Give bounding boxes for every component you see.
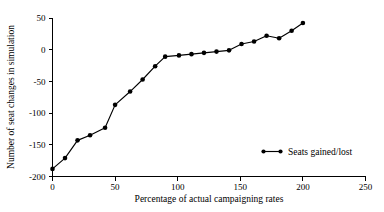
data-point <box>239 42 244 47</box>
data-point <box>301 21 306 26</box>
data-point <box>214 49 219 54</box>
y-axis-ticks: -200-150-100-50050 <box>29 13 53 182</box>
y-tick-label: -200 <box>29 172 46 182</box>
x-tick-label: 250 <box>359 182 373 192</box>
y-tick-label: 0 <box>41 45 46 55</box>
x-tick-label: 150 <box>234 182 248 192</box>
y-tick-label: -150 <box>29 140 46 150</box>
data-point <box>140 77 145 82</box>
x-tick-label: 50 <box>111 182 121 192</box>
series-line-seats-gained-lost <box>53 23 303 169</box>
y-tick-label: 50 <box>37 13 47 23</box>
data-point <box>50 167 55 172</box>
data-point <box>103 125 108 130</box>
legend-dot-left <box>261 149 265 153</box>
series-group <box>50 21 305 171</box>
legend-label-seats-gained-lost: Seats gained/lost <box>288 147 352 157</box>
data-point <box>264 33 269 38</box>
chart-figure: -200-150-100-50050 050100150200250 Perce… <box>0 0 384 212</box>
series-markers-seats-gained-lost <box>50 21 305 171</box>
y-tick-label: -50 <box>34 77 46 87</box>
data-point <box>63 156 68 161</box>
data-point <box>252 39 257 44</box>
x-tick-label: 0 <box>50 182 55 192</box>
y-axis-title: Number of seat changes in simulation <box>6 25 16 169</box>
data-point <box>153 64 158 69</box>
data-point <box>163 54 168 59</box>
x-axis-ticks: 050100150200250 <box>50 177 373 193</box>
data-point <box>88 133 93 138</box>
line-chart: -200-150-100-50050 050100150200250 Perce… <box>0 0 384 212</box>
chart-legend: Seats gained/lost <box>261 147 352 157</box>
data-point <box>202 51 207 56</box>
legend-item-seats-gained-lost: Seats gained/lost <box>261 147 352 157</box>
legend-dot-right <box>278 149 282 153</box>
data-point <box>289 28 294 33</box>
data-point <box>113 103 118 108</box>
data-point <box>277 36 282 41</box>
x-axis-title: Percentage of actual campaigning rates <box>135 194 284 204</box>
x-tick-label: 200 <box>296 182 310 192</box>
data-point <box>227 48 232 53</box>
y-tick-label: -100 <box>29 108 46 118</box>
data-point <box>177 53 182 58</box>
x-tick-label: 100 <box>171 182 185 192</box>
data-point <box>128 89 133 94</box>
data-point <box>75 138 80 143</box>
data-point <box>189 52 194 57</box>
